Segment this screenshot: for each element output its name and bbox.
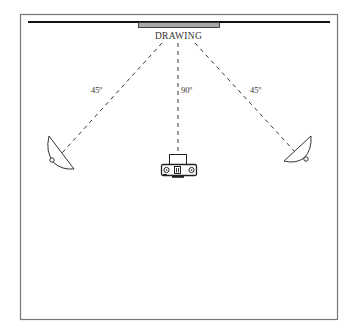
drawing-label: DRAWING [155, 31, 202, 41]
left-angle-label: 45º [91, 85, 103, 95]
camera-angle-label: 90º [181, 85, 193, 95]
drawing-rectangle [139, 23, 220, 28]
lighting-diagram: DRAWING 45º 90º 45º [0, 0, 356, 330]
right-angle-label: 45º [250, 85, 262, 95]
